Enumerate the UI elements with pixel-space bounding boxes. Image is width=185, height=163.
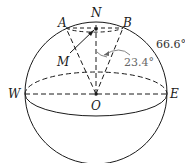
label-n: N	[90, 6, 102, 20]
point-o	[94, 92, 98, 96]
angle-23-4: 23.4°	[124, 56, 154, 69]
label-e: E	[169, 87, 179, 101]
point-n-center	[94, 27, 98, 31]
angle-66-6: 66.6°	[156, 38, 185, 51]
angle-arrowhead	[104, 51, 109, 56]
line-ob	[96, 28, 123, 94]
label-w: W	[8, 87, 22, 101]
label-b: B	[122, 16, 132, 30]
label-o: O	[91, 99, 101, 113]
sphere-diagram: N A B M W E O 66.6° 23.4°	[0, 0, 185, 163]
line-oa	[66, 28, 96, 94]
label-a: A	[57, 16, 67, 30]
label-m: M	[56, 55, 70, 69]
